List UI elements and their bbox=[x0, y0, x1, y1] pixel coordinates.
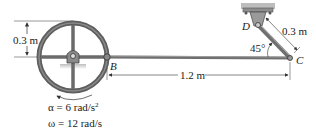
angle-indicator: 45° bbox=[250, 42, 272, 57]
point-d-label: D bbox=[241, 20, 250, 32]
pin-d bbox=[256, 23, 261, 28]
pin-c bbox=[288, 56, 293, 61]
wheel-radius-label: 0.3 m bbox=[13, 34, 39, 46]
point-b-label: B bbox=[110, 60, 117, 72]
ccw-rotation-arrow bbox=[57, 95, 92, 100]
rod-length-label: 1.2 m bbox=[180, 69, 206, 81]
wheel-hub-pin bbox=[71, 54, 76, 59]
wheel bbox=[39, 23, 107, 91]
omega-label: ω = 12 rad/s bbox=[48, 117, 102, 129]
angle-label: 45° bbox=[250, 42, 265, 54]
mechanism-diagram: 0.3 m B 1.2 m D 0.3 bbox=[0, 0, 316, 139]
link-length-label: 0.3 m bbox=[282, 25, 308, 37]
alpha-label: α = 6 rad/s2 bbox=[48, 101, 99, 113]
link-length-dimension: 0.3 m bbox=[266, 18, 308, 53]
point-c-label: C bbox=[296, 54, 304, 66]
rod-length-dimension: 1.2 m bbox=[107, 62, 290, 81]
